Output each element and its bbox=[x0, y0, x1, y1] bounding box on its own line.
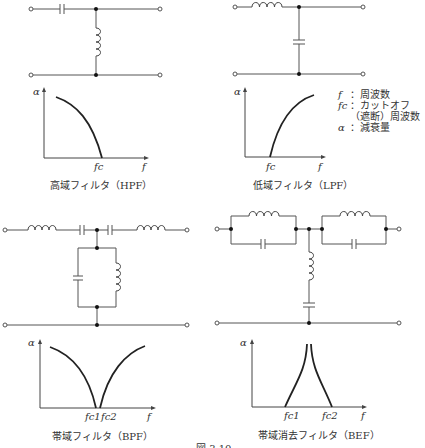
bpf-cutoff-label-2: fc2 bbox=[101, 411, 117, 422]
inductor-icon bbox=[96, 28, 101, 56]
bef-y-label: α bbox=[240, 337, 247, 348]
filter-diagrams bbox=[0, 0, 425, 448]
lpf-x-label: f bbox=[318, 161, 322, 172]
inductor-icon bbox=[137, 226, 165, 231]
bpf-x-label: f bbox=[147, 411, 151, 422]
lpf-y-label: α bbox=[234, 86, 241, 97]
lpf-graph bbox=[243, 87, 326, 159]
bpf-y-label: α bbox=[28, 337, 35, 348]
bpf-graph bbox=[38, 339, 156, 410]
legend-item: fc：カットオフ bbox=[338, 100, 420, 111]
lpf-cutoff-label: fc bbox=[266, 161, 275, 172]
inductor-icon bbox=[340, 212, 370, 217]
legend-item: （遮断）周波数 bbox=[338, 111, 420, 122]
legend: f：周波数 fc：カットオフ （遮断）周波数 α：減衰量 bbox=[338, 89, 420, 133]
lpf-circuit bbox=[233, 3, 365, 77]
inductor-icon bbox=[252, 3, 282, 8]
bef-cutoff-label-2: fc2 bbox=[322, 410, 338, 421]
bef-cutoff-label-1: fc1 bbox=[284, 410, 300, 421]
bpf-cutoff-label-1: fc1 bbox=[85, 411, 101, 422]
hpf-graph bbox=[42, 87, 149, 160]
bef-graph bbox=[250, 339, 367, 409]
hpf-title: 高域フィルタ（HPF） bbox=[50, 177, 152, 192]
inductor-icon bbox=[28, 226, 56, 231]
bef-x-label: f bbox=[361, 410, 365, 421]
bef-title: 帯域消去フィルタ（BEF） bbox=[258, 427, 380, 442]
bpf-title: 帯域フィルタ（BPF） bbox=[52, 428, 153, 443]
hpf-y-label: α bbox=[33, 86, 40, 97]
figure-caption: 図 3.10 bbox=[196, 440, 231, 448]
hpf-circuit bbox=[29, 4, 162, 77]
legend-item: α：減衰量 bbox=[338, 122, 420, 133]
hpf-x-label: f bbox=[142, 161, 146, 172]
inductor-icon bbox=[309, 252, 314, 280]
legend-item: f：周波数 bbox=[338, 89, 420, 100]
bpf-circuit bbox=[3, 225, 189, 327]
inductor-icon bbox=[116, 263, 121, 291]
inductor-icon bbox=[249, 212, 279, 217]
lpf-title: 低域フィルタ（LPF） bbox=[253, 177, 353, 192]
bef-circuit bbox=[215, 212, 401, 326]
hpf-cutoff-label: fc bbox=[94, 161, 103, 172]
